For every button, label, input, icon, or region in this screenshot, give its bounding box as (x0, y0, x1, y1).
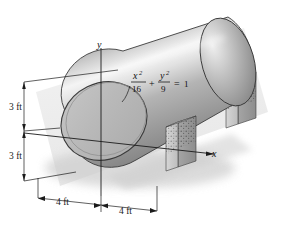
equation-plus-operator: + (149, 78, 155, 89)
equation-right-side: 1 (184, 79, 189, 89)
equation-numerator-y: y (159, 70, 165, 81)
y-axis-label: y (96, 39, 102, 50)
dimension-label-horizontal-right: 4 ft (119, 206, 132, 216)
x-axis-label: x (211, 148, 217, 159)
tank-figure: y x 3 ft 3 ft 4 ft 4 ft (0, 0, 281, 232)
dimension-label-horizontal-left: 4 ft (56, 197, 69, 207)
dimension-label-vertical-lower: 3 ft (9, 151, 22, 161)
equation-denominator-x: 16 (132, 84, 142, 94)
equation-denominator-y: 9 (161, 84, 166, 94)
dimension-label-vertical-upper: 3 ft (9, 102, 22, 112)
equation-numerator-x: x (132, 70, 138, 81)
equation-equals-operator: = (174, 78, 180, 89)
tank-diagram-svg: y x 3 ft 3 ft 4 ft 4 ft (0, 0, 281, 232)
